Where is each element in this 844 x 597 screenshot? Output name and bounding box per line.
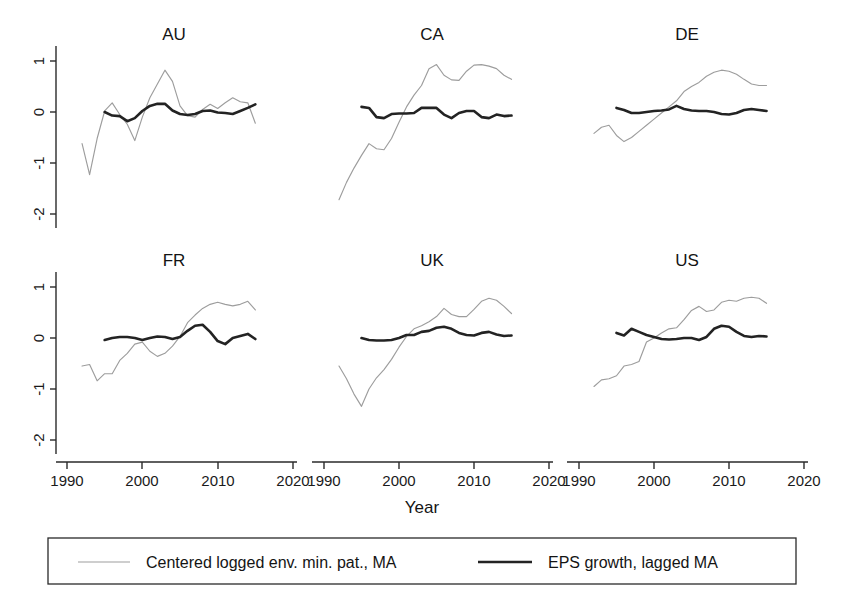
x-tick-label-2010-col3: 2010 (712, 472, 745, 489)
series-line-gray-de (594, 70, 767, 141)
y-tick-label-neg2-row2: -2 (30, 433, 47, 446)
series-line-black-uk (362, 327, 512, 341)
y-tick-label-neg1: -1 (30, 156, 47, 169)
series-line-black-us (617, 326, 767, 340)
figure-container: AU 1 0 -1 -2 CA DE (0, 0, 844, 597)
legend-label-eps-growth: EPS growth, lagged MA (548, 554, 718, 571)
panel-title-de: DE (675, 25, 699, 44)
x-axis-col2: 1990 2000 2010 2020 (307, 462, 565, 489)
panel-title-ca: CA (420, 25, 444, 44)
x-axis-col1: 1990 2000 2010 2020 (50, 462, 309, 489)
series-line-gray-ca (339, 65, 512, 200)
x-tick-label-1990-col3: 1990 (562, 472, 595, 489)
y-tick-label-0-row2: 0 (30, 334, 47, 342)
x-tick-label-2000-col3: 2000 (637, 472, 670, 489)
x-tick-label-2020-col2: 2020 (532, 472, 565, 489)
series-line-gray-us (594, 297, 767, 386)
panel-au: AU 1 0 -1 -2 (30, 25, 255, 228)
y-tick-label-neg1-row2: -1 (30, 382, 47, 395)
x-axis-col3: 1990 2000 2010 2020 (562, 462, 820, 489)
panel-title-uk: UK (420, 251, 444, 270)
series-line-black-de (617, 106, 767, 115)
y-tick-label-1-row2: 1 (30, 283, 47, 291)
y-axis-au: 1 0 -1 -2 (30, 46, 56, 228)
legend-label-centered-patents: Centered logged env. min. pat., MA (146, 554, 397, 571)
series-line-gray-uk (339, 298, 512, 406)
small-multiples-chart: AU 1 0 -1 -2 CA DE (0, 0, 844, 597)
x-tick-label-1990-col2: 1990 (307, 472, 340, 489)
panel-title-fr: FR (163, 251, 186, 270)
x-tick-label-2000-col2: 2000 (382, 472, 415, 489)
series-line-gray-au (82, 70, 255, 175)
series-line-black-ca (362, 107, 512, 118)
panel-de: DE (594, 25, 767, 142)
x-axis-title: Year (405, 498, 440, 517)
legend: Centered logged env. min. pat., MA EPS g… (48, 538, 796, 584)
x-tick-label-2010-col1: 2010 (201, 472, 234, 489)
y-tick-label-0: 0 (30, 108, 47, 116)
x-tick-label-2000-col1: 2000 (125, 472, 158, 489)
x-tick-label-2010-col2: 2010 (457, 472, 490, 489)
panel-title-au: AU (162, 25, 186, 44)
x-tick-label-1990-col1: 1990 (50, 472, 83, 489)
x-tick-label-2020-col1: 2020 (276, 472, 309, 489)
x-tick-label-2020-col3: 2020 (787, 472, 820, 489)
panel-fr: FR 1 0 -1 -2 1990 20 (30, 251, 310, 489)
panel-title-us: US (675, 251, 699, 270)
panel-us: US 1990 2000 2010 2020 (562, 251, 820, 489)
panel-uk: UK 1990 2000 2010 2020 (307, 251, 565, 489)
series-line-black-fr (105, 325, 256, 344)
y-axis-fr: 1 0 -1 -2 (30, 272, 56, 454)
panel-ca: CA (339, 25, 512, 200)
y-tick-label-1: 1 (30, 57, 47, 65)
y-tick-label-neg2: -2 (30, 207, 47, 220)
